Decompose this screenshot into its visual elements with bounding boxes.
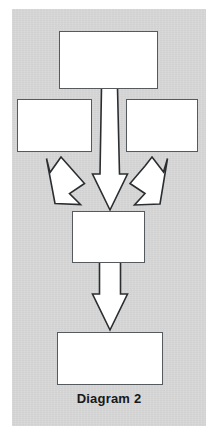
arrow-middle-right-to-center-icon: [130, 157, 168, 205]
node-bottom[interactable]: [57, 332, 163, 385]
diagram-figure: Diagram 2: [0, 0, 216, 435]
arrow-top-to-center-icon: [93, 88, 128, 210]
node-top[interactable]: [59, 31, 158, 89]
node-middle-left[interactable]: [17, 99, 92, 152]
arrow-middle-left-to-center-icon: [47, 157, 85, 205]
node-center[interactable]: [72, 211, 145, 263]
node-middle-right[interactable]: [126, 99, 198, 152]
diagram-stage: Diagram 2: [0, 0, 216, 435]
diagram-caption: Diagram 2: [12, 391, 206, 407]
arrow-center-to-bottom-icon: [93, 262, 128, 330]
